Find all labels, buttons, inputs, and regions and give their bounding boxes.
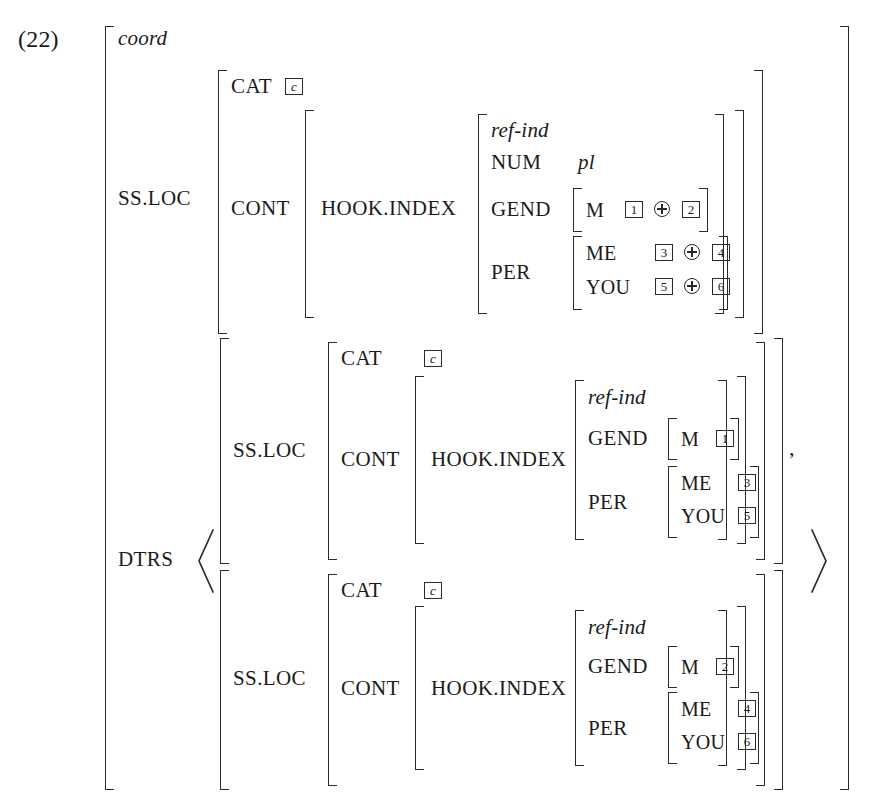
- dtrs-label: DTRS: [118, 549, 173, 570]
- daughter-2-index-type-label: ref-ind: [588, 617, 646, 638]
- mother-num-label: NUM: [491, 152, 541, 173]
- daughter-1-cont-label: CONT: [341, 449, 400, 470]
- mother-gend-m-label: M: [586, 200, 604, 220]
- example-number: (22): [18, 27, 59, 51]
- daughter-1-per-me-label: ME: [681, 473, 712, 493]
- angle-bracket-close-icon: [808, 528, 830, 594]
- mother-per-me-label: ME: [586, 243, 617, 263]
- daughter-2-per-you-label: YOU: [681, 732, 725, 752]
- daughter-2-per-label: PER: [588, 718, 628, 739]
- daughter-2-per-you-tag: 6: [738, 733, 756, 750]
- daughter-1-cat-tag: c: [424, 350, 442, 367]
- daughter-1-gend-tag: 1: [716, 430, 734, 447]
- daughter-2-gend-m-label: M: [681, 657, 699, 677]
- avm-figure: (22) coord SS.LOC CAT c CONT HOOK.INDEX …: [0, 0, 874, 810]
- mother-gend-label: GEND: [491, 199, 551, 220]
- daughter-2-hook-index-label: HOOK.INDEX: [431, 678, 566, 699]
- daughter-1-per-me-tag: 3: [738, 474, 756, 491]
- daughter-2-cat-tag: c: [424, 582, 442, 599]
- daughter-1-per-you-tag: 5: [738, 507, 756, 524]
- daughter-1-index-type-label: ref-ind: [588, 387, 646, 408]
- daughter-1-ss-loc-label: SS.LOC: [233, 440, 306, 461]
- mother-per-me-tag-left: 3: [655, 244, 673, 261]
- mother-hook-index-label: HOOK.INDEX: [321, 198, 456, 219]
- daughter-2-gend-label: GEND: [588, 656, 648, 677]
- daughter-1-per-you-label: YOU: [681, 506, 725, 526]
- mother-index-type-label: ref-ind: [491, 120, 549, 141]
- mother-gend-tag-left: 1: [625, 201, 643, 218]
- daughter-2-per-me-label: ME: [681, 699, 712, 719]
- daughter-2-cont-label: CONT: [341, 678, 400, 699]
- mother-num-value: pl: [578, 152, 595, 173]
- angle-bracket-open-icon: [195, 528, 217, 594]
- circled-plus-icon: [684, 278, 700, 294]
- circled-plus-icon: [684, 244, 700, 260]
- mother-per-you-tag-left: 5: [655, 278, 673, 295]
- daughter-1-hook-index-label: HOOK.INDEX: [431, 449, 566, 470]
- daughter-1-gend-label: GEND: [588, 428, 648, 449]
- mother-per-label: PER: [491, 262, 531, 283]
- mother-cont-label: CONT: [231, 198, 290, 219]
- daughter-2-per-me-tag: 4: [738, 700, 756, 717]
- mother-cat-label: CAT: [231, 76, 272, 97]
- daughter-2-cat-label: CAT: [341, 580, 382, 601]
- daughter-1-per-label: PER: [588, 492, 628, 513]
- root-type-label: coord: [118, 28, 167, 49]
- circled-plus-icon: [654, 201, 670, 217]
- mother-cat-tag: c: [285, 78, 303, 95]
- mother-per-you-tag-right: 6: [712, 278, 730, 295]
- mother-per-me-tag-right: 4: [712, 244, 730, 261]
- daughter-1-cat-label: CAT: [341, 348, 382, 369]
- daughter-2-ss-loc-label: SS.LOC: [233, 668, 306, 689]
- daughter-list-separator: ,: [789, 437, 795, 459]
- mother-per-you-label: YOU: [586, 277, 630, 297]
- daughter-2-gend-tag: 2: [716, 658, 734, 675]
- daughter-1-gend-m-label: M: [681, 429, 699, 449]
- mother-ss-loc-label: SS.LOC: [118, 188, 191, 209]
- mother-gend-tag-right: 2: [682, 201, 700, 218]
